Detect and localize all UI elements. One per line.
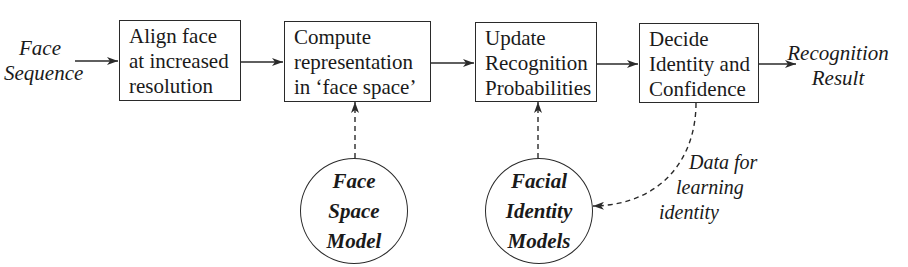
step-update-probabilities: Update Recognition Probabilities <box>475 22 597 102</box>
model-face-space: Face Space Model <box>300 158 408 264</box>
output-label: Recognition Result <box>780 41 896 91</box>
step-compute-representation: Compute representation in ‘face space’ <box>284 21 431 102</box>
input-label: Face Sequence <box>4 36 76 86</box>
step-decide-identity: Decide Identity and Confidence <box>639 23 759 103</box>
step-align-face: Align face at increased resolution <box>119 20 241 101</box>
feedback-label: Data for learning identity <box>654 150 757 225</box>
model-facial-identity: Facial Identity Models <box>485 158 593 264</box>
